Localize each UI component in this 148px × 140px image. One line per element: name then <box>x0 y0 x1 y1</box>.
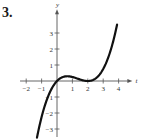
x-tick-label: 2 <box>86 85 90 93</box>
y-tick-label: −3 <box>46 126 54 134</box>
y-axis-arrow-icon <box>55 9 59 14</box>
x-tick-label: −1 <box>38 85 46 93</box>
cubic-graph: ty −2−11234−3−2−1123 <box>0 0 148 140</box>
x-axis-label: t <box>135 77 138 85</box>
x-axis-arrow-icon <box>127 79 132 83</box>
x-tick-label: −2 <box>22 85 30 93</box>
ticks: −2−11234−3−2−1123 <box>22 30 120 134</box>
y-tick-label: 3 <box>50 30 54 38</box>
y-axis-label: y <box>55 1 60 9</box>
axes: ty <box>20 1 138 137</box>
x-tick-label: 1 <box>71 85 75 93</box>
y-tick-label: −2 <box>46 110 54 118</box>
y-tick-label: 1 <box>50 62 54 70</box>
x-tick-label: 4 <box>117 85 121 93</box>
y-tick-label: 2 <box>50 46 54 54</box>
x-tick-label: 3 <box>101 85 105 93</box>
